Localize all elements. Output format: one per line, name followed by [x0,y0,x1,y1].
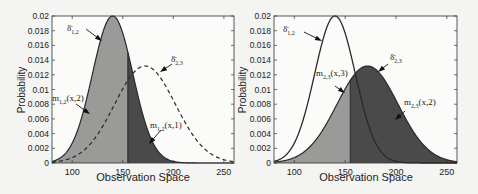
y-tick-label: 0 [44,158,49,168]
right-x-axis-label: Observation Space [319,171,413,183]
y-tick-label: 0.016 [28,40,50,50]
y-tick-label: 0.014 [250,55,272,65]
y-tick-label: 0.006 [28,114,50,124]
y-tick-label: 0.008 [28,99,50,109]
left-y-axis-label: Probability [16,67,27,114]
y-tick-label: 0.014 [28,55,50,65]
y-tick-label: 0.004 [250,129,272,139]
y-tick-label: 0.018 [28,26,50,36]
right-chart: 00.0020.0040.0060.0080.010.0120.0140.016… [238,0,478,194]
y-tick-label: 0 [266,158,271,168]
y-tick-label: 0.012 [28,70,50,80]
y-tick-label: 0.008 [250,99,272,109]
svg-text:m1,2(x,2): m1,2(x,2) [52,93,84,105]
svg-text:m2,3(x,2): m2,3(x,2) [404,97,436,109]
svg-text:m2,3(x,3): m2,3(x,3) [316,68,348,80]
y-tick-label: 0.002 [28,143,50,153]
y-tick-label: 0.012 [250,70,272,80]
x-tick-label: 250 [216,167,231,177]
left-plot-area [52,16,234,163]
left-chart: 00.0020.0040.0060.0080.010.0120.0140.016… [0,0,240,194]
y-tick-label: 0.016 [250,40,272,50]
left-x-axis-label: Observation Space [96,171,190,183]
svg-text:m1,2(x,1): m1,2(x,1) [150,120,182,132]
x-tick-label: 250 [439,167,454,177]
y-tick-label: 0.006 [250,114,272,124]
y-tick-label: 0.01 [254,85,271,95]
y-tick-label: 0.01 [32,85,49,95]
y-tick-label: 0.018 [250,26,272,36]
x-tick-label: 100 [287,167,302,177]
right-plot-area [274,16,457,163]
x-tick-label: 100 [65,167,80,177]
y-tick-label: 0.02 [254,11,271,21]
right-y-axis-label: Probability [238,67,248,114]
y-tick-label: 0.004 [28,129,50,139]
y-tick-label: 0.02 [32,11,49,21]
y-tick-label: 0.002 [250,143,272,153]
